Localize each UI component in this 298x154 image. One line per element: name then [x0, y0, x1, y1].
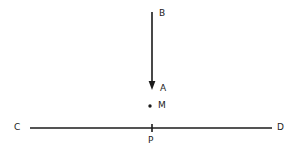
- label-point-p: P: [148, 136, 153, 145]
- label-point-m: M: [158, 101, 166, 110]
- label-point-b: B: [159, 9, 165, 18]
- label-point-d: D: [277, 123, 284, 132]
- label-point-a: A: [160, 84, 166, 93]
- arrowhead-icon: [149, 81, 156, 90]
- geometry-figure-canvas: B A M C D P: [0, 0, 298, 154]
- label-point-c: C: [14, 123, 20, 132]
- point-m-dot: [148, 104, 151, 107]
- figure-vector-layer: [0, 0, 298, 154]
